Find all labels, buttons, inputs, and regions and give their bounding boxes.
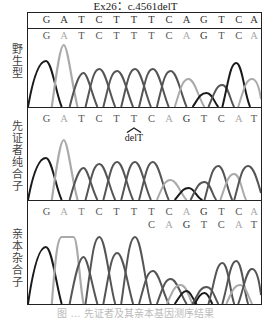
base: G [41, 206, 53, 218]
base: T [215, 206, 227, 218]
base: T [198, 113, 210, 125]
base: C [163, 30, 175, 42]
base: A [58, 30, 70, 42]
panel-divider [28, 200, 261, 201]
parent-trace [28, 233, 261, 304]
base: C [233, 30, 245, 42]
base: T [198, 219, 210, 231]
panel-divider [28, 107, 261, 108]
base: G [198, 206, 210, 218]
panel-label-parent: 亲本杂合子 [2, 220, 24, 296]
called-sequence-row: G A T C T T C A G T C A T [28, 113, 261, 125]
base: C [215, 113, 227, 125]
chromatogram-frame: G A T C T T T C A G T C A G A T C T T T … [27, 12, 262, 305]
reference-sequence-row: G A T C T T T C A G T C A [28, 14, 261, 26]
base: T [215, 14, 227, 26]
base: T [111, 113, 123, 125]
base: A [163, 219, 175, 231]
base: G [180, 219, 192, 231]
base: T [248, 113, 260, 125]
base: T [76, 206, 88, 218]
base: A [58, 14, 70, 26]
base: G [41, 14, 53, 26]
secondary-sequence-row: C A G T C A T [28, 219, 261, 231]
base: T [145, 30, 157, 42]
base: T [111, 14, 123, 26]
base: C [163, 206, 175, 218]
base: C [233, 206, 245, 218]
base: T [76, 30, 88, 42]
base: A [248, 30, 260, 42]
panel-label-proband: 先证者纯合子 [2, 110, 24, 202]
base: T [215, 30, 227, 42]
base: T [111, 30, 123, 42]
base: A [180, 14, 192, 26]
base: T [248, 219, 260, 231]
base: A [163, 113, 175, 125]
base: C [93, 206, 105, 218]
base: T [128, 30, 140, 42]
base: T [145, 14, 157, 26]
base: A [58, 113, 70, 125]
base: A [233, 113, 245, 125]
called-sequence-row: G A T C T T T C A G T C A [28, 206, 261, 218]
base: T [128, 113, 140, 125]
base: T [128, 14, 140, 26]
base: A [248, 14, 260, 26]
base: A [58, 206, 70, 218]
base: C [145, 219, 157, 231]
base: A [180, 206, 192, 218]
base: C [93, 30, 105, 42]
base: G [198, 30, 210, 42]
proband-trace [28, 138, 261, 200]
header-divider [28, 28, 261, 29]
base: C [233, 14, 245, 26]
base: C [145, 113, 157, 125]
figure-caption: 图 … 先证者及其亲本基因测序结果 [0, 309, 271, 319]
base: G [41, 30, 53, 42]
base: T [128, 206, 140, 218]
wildtype-trace [28, 43, 261, 107]
base: T [76, 14, 88, 26]
base: G [41, 113, 53, 125]
called-sequence-row: G A T C T T T C A G T C A [28, 30, 261, 42]
base: A [180, 30, 192, 42]
figure-title: Ex26：c.4561delT [0, 0, 271, 12]
base: A [233, 219, 245, 231]
base: C [93, 113, 105, 125]
panel-label-wildtype: 野生型 [2, 28, 24, 94]
base: C [163, 14, 175, 26]
base: T [76, 113, 88, 125]
base: C [215, 219, 227, 231]
base: T [111, 206, 123, 218]
base: G [198, 14, 210, 26]
base: T [145, 206, 157, 218]
base: A [248, 206, 260, 218]
base: G [180, 113, 192, 125]
base: C [93, 14, 105, 26]
